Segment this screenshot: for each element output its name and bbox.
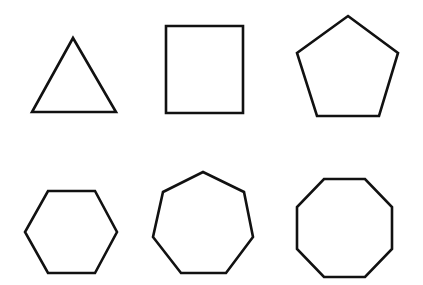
octagon-shape bbox=[297, 179, 392, 277]
polygon-diagram bbox=[0, 0, 423, 285]
square-shape bbox=[166, 26, 243, 113]
